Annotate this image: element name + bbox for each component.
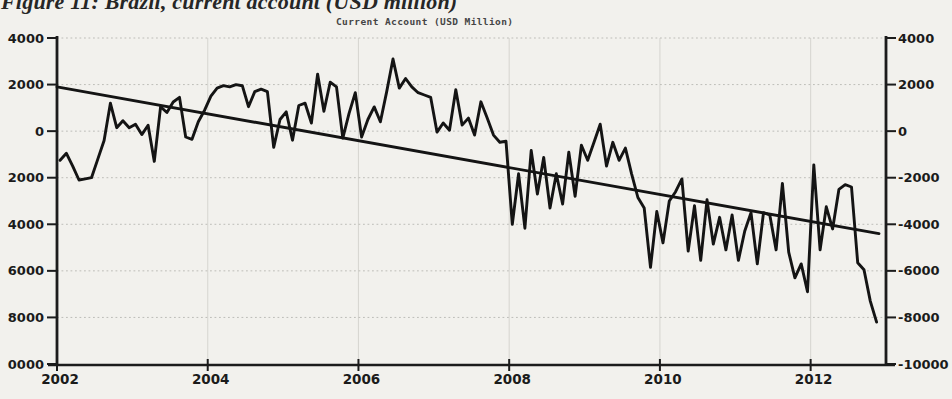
y-axis-label-left: 6000 xyxy=(8,263,44,278)
y-axis-label-left: 0 xyxy=(35,124,44,139)
y-axis-label-left: 2000 xyxy=(8,170,44,185)
y-axis-label-right: -2000 xyxy=(898,170,940,185)
x-axis-label-2006: 2006 xyxy=(343,371,381,387)
current-account-chart: 4000400020002000002000-20004000-40006000… xyxy=(0,0,952,399)
y-axis-label-right: 0 xyxy=(898,124,907,139)
x-axis-label-2004: 2004 xyxy=(192,371,230,387)
y-axis-label-left: 0000 xyxy=(8,357,44,372)
y-axis-label-left: 2000 xyxy=(8,77,44,92)
x-axis-label-2010: 2010 xyxy=(644,371,682,387)
y-axis-label-right: -6000 xyxy=(898,263,940,278)
y-axis-label-right: 4000 xyxy=(898,31,934,46)
x-axis-label-2002: 2002 xyxy=(41,371,79,387)
x-axis-label-2008: 2008 xyxy=(493,371,531,387)
y-axis-label-left: 8000 xyxy=(8,310,44,325)
y-axis-label-left: 4000 xyxy=(8,217,44,232)
y-axis-label-right: -8000 xyxy=(898,310,940,325)
y-axis-label-left: 4000 xyxy=(8,31,44,46)
y-axis-label-right: -10000 xyxy=(898,357,949,372)
y-axis-label-right: 2000 xyxy=(898,77,934,92)
current-account-series-line xyxy=(60,59,877,322)
scanned-figure-page: Figure 11: Brazil, current account (USD … xyxy=(0,0,952,399)
y-axis-label-right: -4000 xyxy=(898,217,940,232)
x-axis-label-2012: 2012 xyxy=(795,371,833,387)
